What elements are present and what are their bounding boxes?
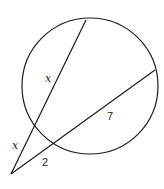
secant-line-1 [11,20,86,174]
label-secant2-internal: 7 [107,111,113,122]
label-secant1-internal: x [45,73,51,84]
label-secant2-external: 2 [42,157,48,168]
secant-diagram: x x 7 2 [0,0,164,189]
diagram-canvas [0,0,164,189]
circle [22,18,158,154]
label-secant1-external: x [12,140,18,151]
